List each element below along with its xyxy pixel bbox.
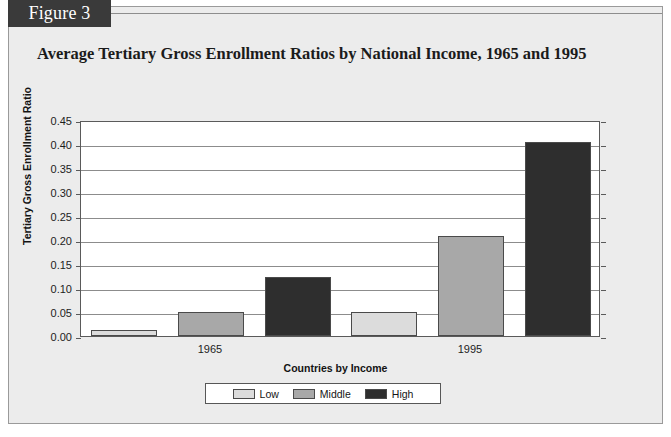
y-axis-tick-right [601,338,606,339]
y-axis-tick [76,122,81,123]
y-axis-tick [76,338,81,339]
y-axis-tick [76,314,81,315]
gridline [81,194,599,195]
x-axis-title: Countries by Income [0,362,671,374]
y-axis-tick-right [601,314,606,315]
gridline [81,218,599,219]
plot-region [80,121,600,337]
y-axis-tick-label: 0.35 [32,163,72,175]
y-axis-tick [76,194,81,195]
y-axis-tick-right [601,290,606,291]
y-axis-tick-label: 0.40 [32,139,72,151]
plot-area [80,121,600,337]
y-axis-tick-label: 0.45 [32,115,72,127]
y-axis-tick-label: 0.00 [32,331,72,343]
figure-number-badge: Figure 3 [8,0,111,27]
y-axis-tick-label: 0.10 [32,283,72,295]
y-axis-tick [76,146,81,147]
y-axis-tick [76,218,81,219]
gridline [81,170,599,171]
y-axis-tick-label: 0.05 [32,307,72,319]
gridline [81,266,599,267]
y-axis-tick-labels: 0.000.050.100.150.200.250.300.350.400.45 [28,121,72,337]
y-axis-tick-right [601,146,606,147]
gridline [81,290,599,291]
y-axis-tick-right [601,242,606,243]
y-axis-tick-label: 0.15 [32,259,72,271]
y-axis-tick [76,170,81,171]
y-axis-tick-label: 0.25 [32,211,72,223]
gridline [81,314,599,315]
legend-label-high: High [392,388,414,400]
bar-1995-middle [438,236,504,336]
bar-1965-middle [178,312,244,336]
legend-label-middle: Middle [320,388,351,400]
y-axis-tick [76,242,81,243]
legend-label-low: Low [260,388,279,400]
legend-swatch-high [365,389,387,399]
gridline [81,146,599,147]
chart-title: Average Tertiary Gross Enrollment Ratios… [37,43,617,64]
badge-rule [111,13,662,14]
bar-1995-high [525,142,591,336]
gridline [81,242,599,243]
chart-legend: LowMiddleHigh [205,383,441,404]
y-axis-tick-right [601,194,606,195]
figure-panel: Figure 3 Average Tertiary Gross Enrollme… [0,0,671,437]
y-axis-tick [76,290,81,291]
y-axis-tick-right [601,266,606,267]
bar-1965-high [265,277,331,336]
x-axis-tick-label-1995: 1995 [430,343,510,355]
legend-swatch-middle [293,389,315,399]
bar-1995-low [351,312,417,336]
y-axis-tick-label: 0.20 [32,235,72,247]
legend-item-high: High [365,388,414,400]
y-axis-tick-right [601,170,606,171]
legend-item-low: Low [233,388,279,400]
y-axis-tick-label: 0.30 [32,187,72,199]
y-axis-tick-right [601,122,606,123]
legend-swatch-low [233,389,255,399]
y-axis-tick [76,266,81,267]
y-axis-tick-right [601,218,606,219]
bar-1965-low [91,330,157,336]
legend-item-middle: Middle [293,388,351,400]
x-axis-tick-label-1965: 1965 [170,343,250,355]
